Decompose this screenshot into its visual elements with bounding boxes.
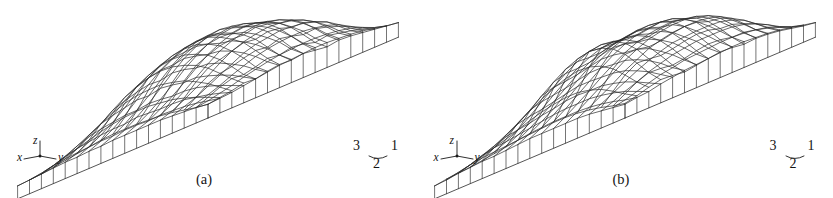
corner-label-3: 3 xyxy=(770,139,777,153)
surface-panel-b: z x y 3 2 1 (b) xyxy=(417,0,833,198)
corner-label-1: 1 xyxy=(808,139,815,153)
axis-triad xyxy=(24,141,56,159)
panel-caption-a: (a) xyxy=(196,172,212,187)
panel-caption-b: (b) xyxy=(613,172,630,187)
axis-label-y: y xyxy=(475,152,480,164)
surface-wireframe-b xyxy=(417,0,833,198)
corner-label-2: 2 xyxy=(373,157,380,171)
corner-label-2: 2 xyxy=(790,157,797,171)
surface-plot-a xyxy=(0,0,417,198)
surface-panel-a: z x y 3 2 1 (a) xyxy=(0,0,417,198)
surface-wireframe-a xyxy=(0,0,417,198)
corner-label-1: 1 xyxy=(391,139,398,153)
axis-label-x: x xyxy=(434,152,439,164)
corner-label-3: 3 xyxy=(353,139,360,153)
axis-triad xyxy=(441,141,473,159)
axis-label-y: y xyxy=(58,152,63,164)
axis-label-z: z xyxy=(450,135,454,147)
axis-label-x: x xyxy=(17,152,22,164)
axis-label-z: z xyxy=(33,135,37,147)
figure-row: z x y 3 2 1 (a) z x y 3 2 1 (b) xyxy=(0,0,833,198)
surface-plot-b xyxy=(417,0,833,198)
